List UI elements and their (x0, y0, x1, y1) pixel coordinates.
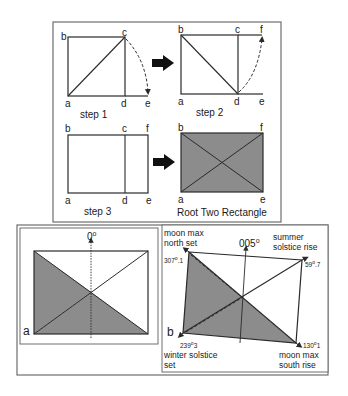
panel-b: 005o b moon max north set 307o.1 summer … (162, 225, 328, 372)
step2-label-f: f (260, 24, 263, 35)
step1-label-c: c (122, 27, 127, 38)
step3-label-e: e (146, 195, 152, 206)
root-two-label-a: a (178, 194, 184, 205)
step1-label-d: d (121, 98, 127, 109)
panel-a-label: a (23, 324, 30, 338)
step1-caption: step 1 (80, 109, 108, 120)
panel-a: 0o a (20, 228, 158, 344)
root-two-label-b: b (178, 122, 184, 133)
step3-label-b: b (65, 123, 71, 134)
moon-max-south-rise-line2: south rise (279, 360, 316, 370)
step3-label-c: c (122, 123, 127, 134)
step2-label-e: e (259, 96, 265, 107)
bottom-panel: 0o a 005o b moon max north set (17, 225, 328, 375)
diagram-canvas: b c a d e step 1 b c f a d e step 2 (0, 0, 348, 396)
winter-solstice-set-line1: winter solstice (163, 350, 218, 360)
moon-max-south-rise-line1: moon max (279, 350, 319, 360)
moon-max-north-set-bearing: 307o.1 (164, 255, 183, 264)
step3-label-f: f (146, 123, 149, 134)
step1-label-a: a (65, 98, 71, 109)
step2-label-b: b (178, 24, 184, 35)
summer-solstice-rise-line1: summer (273, 232, 304, 242)
root-two-label-f: f (260, 122, 263, 133)
moon-max-north-set-line2: north set (164, 238, 198, 248)
top-panel: b c a d e step 1 b c f a d e step 2 (53, 22, 281, 222)
step2-label-d: d (234, 96, 240, 107)
winter-solstice-set-bearing: 239o3 (180, 340, 198, 349)
root-two-label-e: e (260, 194, 266, 205)
panel-b-label: b (167, 325, 174, 339)
step2-label-c: c (235, 24, 240, 35)
step3-label-d: d (122, 195, 128, 206)
step2-label-a: a (178, 96, 184, 107)
summer-solstice-rise-line2: solstice rise (273, 242, 318, 252)
winter-solstice-set-line2: set (164, 360, 176, 370)
root-two-caption: Root Two Rectangle (177, 207, 267, 218)
step3-label-a: a (65, 195, 71, 206)
step3-caption: step 3 (84, 206, 112, 217)
step1-label-b: b (61, 31, 67, 42)
step1-label-e: e (145, 98, 151, 109)
moon-max-north-set-line1: moon max (164, 228, 204, 238)
moon-max-south-rise-bearing: 130o1 (303, 340, 321, 349)
step2-caption: step 2 (196, 107, 224, 118)
